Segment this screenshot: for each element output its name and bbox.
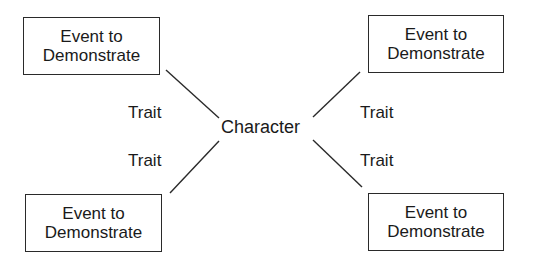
event-box-line1: Event to xyxy=(405,203,467,222)
connector-bottom-left xyxy=(170,141,219,193)
event-box-line2: Demonstrate xyxy=(387,222,484,241)
event-box-line1: Event to xyxy=(405,25,467,44)
event-box-top-left: Event to Demonstrate xyxy=(23,17,160,75)
trait-label-top-right: Trait xyxy=(360,103,393,122)
trait-label-bottom-right: Trait xyxy=(360,151,393,170)
event-box-line1: Event to xyxy=(60,27,122,46)
center-node-character: Character xyxy=(221,117,300,137)
connector-bottom-right xyxy=(313,140,362,187)
event-box-line2: Demonstrate xyxy=(45,223,142,242)
event-box-line1: Event to xyxy=(62,204,124,223)
event-box-line2: Demonstrate xyxy=(43,46,140,65)
event-box-bottom-left: Event to Demonstrate xyxy=(25,194,162,252)
event-box-top-right: Event to Demonstrate xyxy=(368,15,504,73)
connector-top-right xyxy=(313,72,360,117)
trait-label-bottom-left: Trait xyxy=(128,151,161,170)
character-trait-diagram: Event to Demonstrate Event to Demonstrat… xyxy=(0,0,533,269)
trait-label-top-left: Trait xyxy=(128,103,161,122)
event-box-line2: Demonstrate xyxy=(387,44,484,63)
event-box-bottom-right: Event to Demonstrate xyxy=(368,193,504,251)
connector-top-left xyxy=(166,70,219,118)
